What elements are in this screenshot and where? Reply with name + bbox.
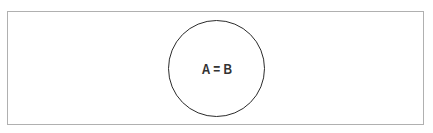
set-circle: A = B — [168, 20, 265, 117]
circle-label: A = B — [201, 61, 231, 77]
